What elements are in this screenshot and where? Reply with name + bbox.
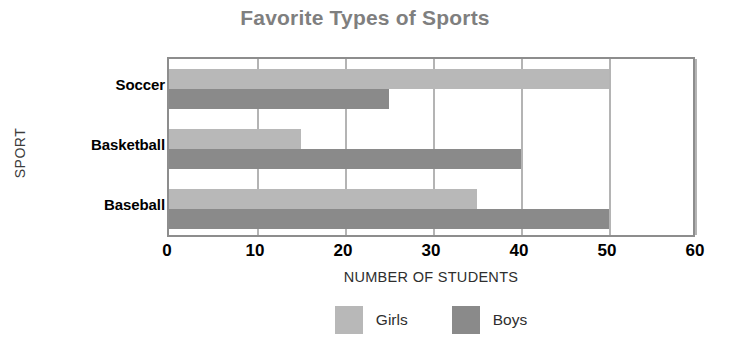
bar-baseball-girls [169, 189, 477, 209]
category-axis-labels: SoccerBasketballBaseball [10, 57, 165, 237]
gridline-x-60 [695, 59, 697, 235]
bar-soccer-girls [169, 69, 609, 89]
legend-swatch-girls [335, 306, 363, 334]
x-tick-label-0: 0 [137, 241, 197, 261]
x-tick-label-60: 60 [665, 241, 725, 261]
category-label-soccer: Soccer [15, 76, 165, 93]
legend-label-boys: Boys [493, 311, 527, 329]
x-tick-label-10: 10 [225, 241, 285, 261]
bar-basketball-boys [169, 149, 521, 169]
category-label-basketball: Basketball [15, 136, 165, 153]
chart-container: Favorite Types of Sports SPORT SoccerBas… [0, 0, 730, 350]
chart-legend: GirlsBoys [167, 303, 695, 337]
x-axis-tick-labels: 0102030405060 [167, 241, 695, 265]
legend-item-girls[interactable]: Girls [335, 306, 408, 334]
x-tick-label-30: 30 [401, 241, 461, 261]
legend-swatch-boys [452, 306, 480, 334]
bar-baseball-boys [169, 209, 609, 229]
chart-title: Favorite Types of Sports [0, 6, 730, 30]
category-label-baseball: Baseball [15, 196, 165, 213]
x-tick-label-20: 20 [313, 241, 373, 261]
x-axis-title: NUMBER OF STUDENTS [167, 269, 695, 285]
bar-soccer-boys [169, 89, 389, 109]
x-tick-label-40: 40 [489, 241, 549, 261]
bar-series-group [169, 59, 693, 235]
bar-basketball-girls [169, 129, 301, 149]
legend-item-boys[interactable]: Boys [452, 306, 527, 334]
plot-area [167, 57, 695, 237]
legend-label-girls: Girls [376, 311, 408, 329]
x-tick-label-50: 50 [577, 241, 637, 261]
